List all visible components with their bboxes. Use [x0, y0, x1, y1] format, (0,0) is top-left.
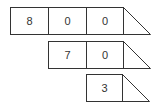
place-value-diagram: 8 0 0 7 0 3 — [0, 0, 160, 106]
row-1-arrow-tab-icon — [124, 8, 151, 35]
row-3 — [87, 75, 150, 102]
row-3-arrow-tab-icon — [123, 75, 150, 102]
row-2-arrow-tab-icon — [124, 42, 151, 69]
row-1-digit-2: 0 — [64, 15, 70, 27]
row-1-digit-3: 0 — [102, 15, 108, 27]
row-3-digit-1: 3 — [101, 82, 107, 94]
row-1-digit-1: 8 — [26, 15, 32, 27]
row-2-digit-2: 0 — [102, 49, 108, 61]
row-2-digit-1: 7 — [64, 49, 70, 61]
